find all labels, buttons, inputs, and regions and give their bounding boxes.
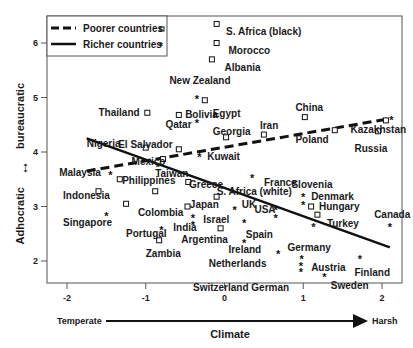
point-label: New Zealand bbox=[169, 75, 230, 86]
square-marker-icon bbox=[153, 189, 158, 194]
square-marker-icon bbox=[214, 41, 219, 46]
point-label: El Salvador bbox=[118, 139, 173, 150]
point-label: Germany bbox=[288, 242, 332, 253]
square-marker-icon bbox=[261, 132, 266, 137]
point-label: Zambia bbox=[146, 248, 181, 259]
square-marker-icon bbox=[332, 128, 337, 133]
point-label: Sweden bbox=[331, 280, 369, 291]
square-marker-icon bbox=[145, 110, 150, 115]
point-label: Canada bbox=[374, 209, 411, 220]
square-marker-icon bbox=[202, 98, 207, 103]
point-label: China bbox=[295, 102, 323, 113]
point-label: USA bbox=[254, 204, 275, 215]
point-label: Israel bbox=[203, 214, 229, 225]
point-label: Russia bbox=[354, 143, 387, 154]
point-label: Slovenia bbox=[291, 179, 333, 190]
star-marker-icon: * bbox=[233, 204, 238, 216]
point-label: Kuwait bbox=[207, 151, 240, 162]
point-label: Colombia bbox=[138, 207, 184, 218]
point-label: Nigeria bbox=[87, 138, 121, 149]
x-tick-label: 0 bbox=[222, 293, 227, 303]
square-marker-icon bbox=[176, 112, 181, 117]
point-label: Poland bbox=[295, 134, 328, 145]
y-axis-right-label: bureaucratic bbox=[14, 83, 26, 149]
star-marker-icon: * bbox=[276, 248, 281, 260]
square-marker-icon bbox=[383, 118, 388, 123]
y-tick-label: 6 bbox=[33, 38, 38, 48]
star-marker-icon: * bbox=[250, 172, 255, 184]
point-label: Hungary bbox=[319, 201, 360, 212]
point-label: Mexico bbox=[132, 156, 166, 167]
point-label: Iran bbox=[260, 120, 278, 131]
star-marker-icon: * bbox=[195, 93, 200, 105]
square-marker-icon bbox=[214, 21, 219, 26]
point-label: Austria bbox=[311, 262, 346, 273]
y-tick-label: 3 bbox=[33, 202, 38, 212]
double-arrow-icon: ↔ bbox=[14, 161, 31, 176]
star-marker-icon: * bbox=[301, 199, 306, 211]
point-label: Kazakhstan bbox=[351, 124, 407, 135]
y-tick-label: 5 bbox=[33, 93, 38, 103]
square-marker-icon bbox=[302, 115, 307, 120]
y-axis-title: Adhocratic ↔ bureaucratic bbox=[14, 83, 31, 245]
point-label: Argentina bbox=[181, 234, 228, 245]
point-label: Netherlands bbox=[209, 258, 267, 269]
point-label: Thailand bbox=[99, 107, 140, 118]
point-label: Japan bbox=[190, 199, 219, 210]
scatter-chart: ************************** S. Africa (bl… bbox=[0, 0, 413, 348]
point-label: Switzerland German bbox=[193, 282, 289, 293]
point-label: Finland bbox=[354, 267, 390, 278]
point-label: Spain bbox=[246, 229, 273, 240]
y-axis-ticks: 23456 bbox=[33, 38, 47, 266]
point-label: Indonesia bbox=[63, 190, 110, 201]
square-marker-icon bbox=[124, 201, 129, 206]
x-axis-right-label: Harsh bbox=[372, 316, 398, 326]
point-label: Morocco bbox=[228, 45, 270, 56]
y-axis-left-label: Adhocratic bbox=[14, 187, 26, 244]
star-marker-icon: * bbox=[358, 253, 363, 265]
star-marker-icon: * bbox=[197, 151, 202, 163]
point-label: Malaysia bbox=[59, 167, 101, 178]
x-axis-title: Climate bbox=[210, 328, 250, 340]
square-marker-icon bbox=[218, 226, 223, 231]
x-axis-left-label: Temperate bbox=[57, 316, 102, 326]
point-label: S. Africa (black) bbox=[226, 26, 301, 37]
point-label: Ireland bbox=[228, 244, 261, 255]
star-marker-icon: * bbox=[108, 169, 113, 181]
star-marker-icon: * bbox=[299, 266, 304, 278]
point-label: India bbox=[173, 222, 197, 233]
star-marker-icon: * bbox=[388, 221, 393, 233]
point-label: S. Africa (white) bbox=[217, 186, 292, 197]
point-label: Albania bbox=[225, 62, 262, 73]
point-label: Denmark bbox=[311, 191, 354, 202]
legend-richer-label: Richer countries bbox=[83, 39, 162, 50]
y-tick-label: 4 bbox=[33, 147, 38, 157]
point-label: Portugal bbox=[126, 228, 167, 239]
x-tick-label: -2 bbox=[63, 293, 71, 303]
x-tick-label: 1 bbox=[301, 293, 306, 303]
point-label: Georgia bbox=[213, 126, 251, 137]
legend-poorer-label: Poorer countries bbox=[83, 23, 163, 34]
legend: Poorer countries Richer countries * bbox=[47, 16, 167, 56]
star-marker-icon: * bbox=[311, 221, 316, 233]
arrow-right-icon bbox=[353, 314, 368, 328]
y-tick-label: 2 bbox=[33, 256, 38, 266]
x-tick-label: -1 bbox=[142, 293, 150, 303]
point-label: Taiwan bbox=[155, 168, 188, 179]
square-marker-icon bbox=[176, 147, 181, 152]
point-label: Qatar bbox=[165, 119, 191, 130]
star-marker-icon: * bbox=[242, 217, 247, 229]
square-marker-icon bbox=[315, 212, 320, 217]
point-label: Singapore bbox=[63, 217, 112, 228]
point-label: Turkey bbox=[327, 218, 359, 229]
square-marker-icon bbox=[209, 57, 214, 62]
star-marker-icon: * bbox=[159, 41, 163, 52]
square-marker-icon bbox=[309, 204, 314, 209]
x-tick-label: 2 bbox=[379, 293, 384, 303]
